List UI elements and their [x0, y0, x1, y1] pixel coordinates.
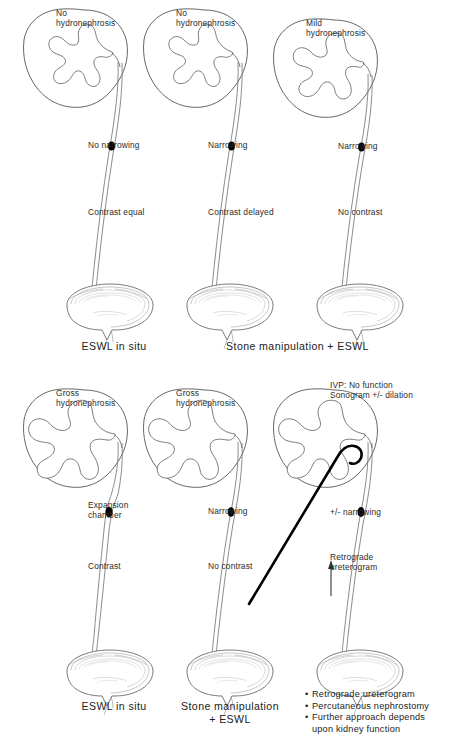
caption-stone-manipulation-top: Stone manipulation + ESWL [205, 340, 390, 353]
panel-4-kidney-label: Gross hydronephrosis [56, 388, 115, 409]
panel-2-kidney-label: No hydronephrosis [176, 8, 235, 29]
bullet-dot-icon: • [305, 701, 312, 713]
panel-4-stone-label: Expansion chamber [88, 500, 128, 521]
bullet-dot-icon: • [305, 712, 312, 724]
caption-eswl-in-situ-top: ESWL in situ [40, 340, 188, 353]
panel-2-contrast-label: Contrast delayed [208, 207, 274, 217]
bullet-text: Retrograde ureterogram [312, 689, 415, 699]
panel-3-stone-label: Narrowing [338, 141, 378, 151]
panel-2-stone-label: Narrowing [208, 140, 248, 150]
bullet-item: •Retrograde ureterogram [305, 689, 429, 701]
bullet-text: Further approach depends [312, 712, 425, 722]
bullet-item: •Percutaneous nephrostomy [305, 701, 429, 713]
panel-4-contrast-label: Contrast [88, 561, 121, 571]
panel-6-contrast-label: Retrograde ureterogram [330, 552, 377, 573]
bullet-item: •Further approach depends [305, 712, 429, 724]
panel-6-kidney-label: IVP: No function Sonogram +/- dilation [330, 380, 413, 401]
panel-6-stone-label: +/- narrowing [330, 507, 381, 517]
bullet-text: Percutaneous nephrostomy [312, 701, 429, 711]
panel-3-kidney-label: Mild hydronephrosis [306, 18, 365, 39]
eswl-treatment-diagram [0, 0, 450, 744]
bullet-dot-icon: • [305, 689, 312, 701]
panel-1-kidney-label: No hydronephrosis [56, 8, 115, 29]
panel-5-contrast-label: No contrast [208, 561, 252, 571]
panel-1-stone-label: No narrowing [88, 140, 140, 150]
bullet-continuation: upon kidney function [305, 724, 429, 736]
panel-1-contrast-label: Contrast equal [88, 207, 145, 217]
panel-6-bullet-list: •Retrograde ureterogram •Percutaneous ne… [305, 689, 429, 735]
panel-5-kidney-label: Gross hydronephrosis [176, 388, 235, 409]
canvas-background [0, 0, 450, 744]
panel-5-stone-label: Narrowing [208, 506, 248, 516]
panel-3-contrast-label: No contrast [338, 207, 382, 217]
caption-stone-manipulation-bottom: Stone manipulation + ESWL [165, 700, 295, 726]
